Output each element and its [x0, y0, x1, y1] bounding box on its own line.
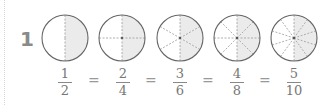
fraction-circles	[0, 0, 329, 105]
fraction-2: 2 4	[111, 67, 135, 98]
fraction-circle-5	[271, 15, 317, 61]
denominator: 4	[111, 83, 135, 98]
numerator: 4	[225, 67, 249, 82]
equals-sign: =	[259, 72, 271, 88]
fraction-circle-3	[157, 15, 203, 61]
denominator: 6	[168, 83, 192, 98]
fraction-circle-1	[42, 15, 88, 61]
fraction-4: 4 8	[225, 67, 249, 98]
equals-sign: =	[145, 72, 157, 88]
numerator: 3	[168, 67, 192, 82]
numerator: 2	[111, 67, 135, 82]
equals-sign: =	[202, 72, 214, 88]
fraction-3: 3 6	[168, 67, 192, 98]
equals-sign: =	[88, 72, 100, 88]
denominator: 8	[225, 83, 249, 98]
numerator: 1	[53, 67, 77, 82]
denominator: 2	[53, 83, 77, 98]
fraction-1: 1 2	[53, 67, 77, 98]
denominator: 10	[282, 83, 306, 98]
numerator: 5	[282, 67, 306, 82]
fraction-circle-4	[214, 15, 260, 61]
fraction-5: 5 10	[282, 67, 306, 98]
fraction-circle-2	[99, 15, 145, 61]
